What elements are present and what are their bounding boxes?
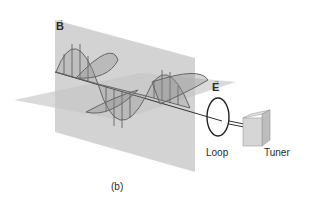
- loop-label: Loop: [206, 148, 228, 158]
- magnetic-field-label: → B: [56, 21, 64, 32]
- electric-field-label: → E: [212, 82, 219, 93]
- loop-connector: [229, 121, 244, 124]
- tuner-label: Tuner: [264, 148, 290, 158]
- vector-arrow-icon: →: [213, 77, 220, 84]
- tuner-box: [243, 110, 270, 146]
- em-wave-diagram: [0, 0, 310, 201]
- loop-connector-2: [229, 124, 244, 127]
- figure-caption: (b): [111, 182, 123, 192]
- loop-antenna: [207, 98, 229, 136]
- vector-arrow-icon: →: [57, 16, 64, 23]
